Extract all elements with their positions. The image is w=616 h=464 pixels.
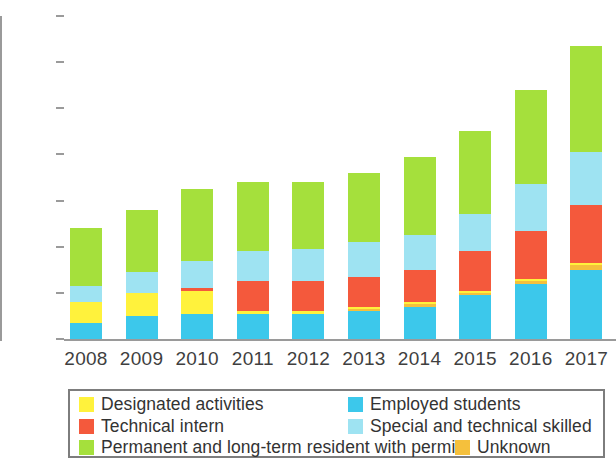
bar-group bbox=[515, 0, 547, 339]
bar-group bbox=[348, 0, 380, 339]
bar-segment bbox=[126, 316, 158, 339]
bar-segment bbox=[570, 263, 602, 265]
bar-segment bbox=[348, 309, 380, 311]
bar-segment bbox=[126, 272, 158, 293]
x-axis-tick-label: 2016 bbox=[499, 348, 563, 370]
bar-group bbox=[404, 0, 436, 339]
x-axis-tick-label: 2012 bbox=[276, 348, 340, 370]
legend-item[interactable]: Unknown bbox=[455, 436, 551, 459]
y-axis-tick-mark bbox=[56, 153, 64, 155]
bar-segment bbox=[515, 284, 547, 339]
legend-item[interactable]: Designated activities bbox=[79, 393, 264, 416]
bar-segment bbox=[181, 314, 213, 339]
legend-label: Special and technical skilled bbox=[370, 416, 592, 437]
legend-row: Permanent and long-term resident with pe… bbox=[70, 436, 603, 459]
bar-segment bbox=[404, 157, 436, 235]
bar-segment bbox=[292, 249, 324, 281]
legend-item[interactable]: Employed students bbox=[348, 393, 521, 416]
chart-legend: Designated activitiesEmployed studentsTe… bbox=[68, 389, 605, 458]
bar-segment bbox=[459, 295, 491, 339]
bar-segment bbox=[237, 182, 269, 251]
y-axis-tick-mark bbox=[56, 15, 64, 17]
x-axis-tick-label: 2017 bbox=[554, 348, 616, 370]
bar-segment bbox=[348, 277, 380, 307]
bar-segment bbox=[292, 314, 324, 339]
bar-segment bbox=[348, 173, 380, 242]
bar-segment bbox=[570, 265, 602, 270]
legend-label: Unknown bbox=[477, 437, 551, 458]
x-axis-tick-label: 2009 bbox=[110, 348, 174, 370]
bar-group bbox=[237, 0, 269, 339]
bar-segment bbox=[70, 323, 102, 339]
x-axis-tick-label: 2010 bbox=[165, 348, 229, 370]
legend-item[interactable]: Technical intern bbox=[79, 415, 224, 438]
bar-segment bbox=[292, 281, 324, 311]
legend-label: Technical intern bbox=[101, 416, 224, 437]
bar-segment bbox=[181, 189, 213, 261]
bar-segment bbox=[237, 281, 269, 311]
bar-segment bbox=[570, 46, 602, 152]
bar-group bbox=[459, 0, 491, 339]
legend-label: Employed students bbox=[370, 394, 521, 415]
legend-label: Designated activities bbox=[101, 394, 264, 415]
legend-item[interactable]: Special and technical skilled bbox=[348, 415, 592, 438]
x-axis-tick-label: 2011 bbox=[221, 348, 285, 370]
bar-segment bbox=[515, 184, 547, 230]
bar-segment bbox=[570, 270, 602, 339]
legend-swatch-icon bbox=[79, 419, 94, 434]
bar-segment bbox=[348, 307, 380, 309]
legend-swatch-icon bbox=[79, 397, 94, 412]
x-axis-tick-label: 2015 bbox=[443, 348, 507, 370]
bar-group bbox=[70, 0, 102, 339]
bar-segment bbox=[515, 279, 547, 281]
y-axis-tick-mark bbox=[56, 246, 64, 248]
bar-segment bbox=[515, 281, 547, 283]
bar-segment bbox=[70, 286, 102, 302]
legend-item[interactable]: Permanent and long-term resident with pe… bbox=[79, 436, 460, 459]
bar-segment bbox=[70, 228, 102, 286]
legend-row: Technical internSpecial and technical sk… bbox=[70, 415, 603, 438]
bar-segment bbox=[404, 235, 436, 270]
bar-segment bbox=[348, 242, 380, 277]
bar-segment bbox=[70, 302, 102, 323]
y-axis-tick-mark bbox=[56, 107, 64, 109]
bar-segment bbox=[348, 311, 380, 339]
bar-group bbox=[181, 0, 213, 339]
bar-segment bbox=[292, 182, 324, 249]
legend-swatch-icon bbox=[79, 440, 94, 455]
bar-segment bbox=[515, 231, 547, 279]
y-axis-tick-mark bbox=[56, 200, 64, 202]
bar-segment bbox=[237, 314, 269, 339]
bar-segment bbox=[515, 90, 547, 185]
x-axis-line bbox=[64, 339, 616, 341]
legend-swatch-icon bbox=[455, 440, 470, 455]
bar-group bbox=[292, 0, 324, 339]
bar-segment bbox=[181, 291, 213, 314]
bar-group bbox=[126, 0, 158, 339]
stacked-bar-chart: 0.00.20.40.60.81.01.21.4 200820092010201… bbox=[0, 0, 616, 464]
y-axis-tick-mark bbox=[56, 61, 64, 63]
bar-segment bbox=[570, 205, 602, 263]
y-axis-line bbox=[0, 16, 2, 341]
bar-segment bbox=[404, 270, 436, 302]
bar-segment bbox=[459, 291, 491, 293]
bar-group bbox=[570, 0, 602, 339]
bar-segment bbox=[237, 311, 269, 313]
legend-label: Permanent and long-term resident with pe… bbox=[101, 437, 460, 458]
x-axis-tick-label: 2013 bbox=[332, 348, 396, 370]
legend-swatch-icon bbox=[348, 419, 363, 434]
bar-segment bbox=[126, 293, 158, 316]
bar-segment bbox=[404, 304, 436, 306]
bar-segment bbox=[404, 302, 436, 304]
bar-segment bbox=[459, 251, 491, 290]
bar-segment bbox=[459, 214, 491, 251]
x-axis-tick-label: 2008 bbox=[54, 348, 118, 370]
x-axis-tick-label: 2014 bbox=[388, 348, 452, 370]
legend-row: Designated activitiesEmployed students bbox=[70, 393, 603, 416]
bar-segment bbox=[126, 210, 158, 272]
bar-segment bbox=[459, 293, 491, 295]
y-axis-tick-mark bbox=[56, 292, 64, 294]
bar-segment bbox=[292, 311, 324, 313]
bar-segment bbox=[181, 288, 213, 290]
bar-segment bbox=[404, 307, 436, 339]
